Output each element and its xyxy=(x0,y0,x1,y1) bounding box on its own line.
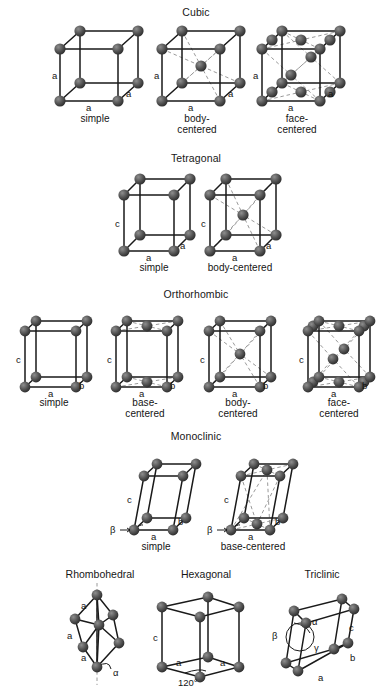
edge-label-a: a xyxy=(139,388,145,397)
edge-label-a-right: a xyxy=(220,657,226,668)
edge-label-c: c xyxy=(200,354,205,365)
edge-label-a-mid: a xyxy=(67,630,73,641)
edge-label-a: a xyxy=(248,531,254,541)
edge-label-c: c xyxy=(201,218,206,229)
angle-label-beta: β xyxy=(207,524,213,535)
edge-label-c: c xyxy=(115,218,120,229)
edge-label-a-depth: a xyxy=(266,240,272,251)
edge-label-a-depth: a xyxy=(328,88,334,99)
caption-tetragonal-body-centered: body-centered xyxy=(196,263,284,274)
edge-label-c: c xyxy=(107,354,112,365)
edge-label-c: c xyxy=(127,494,132,505)
beta-arrow-icon xyxy=(217,528,227,532)
edge-label-a: a xyxy=(151,531,157,541)
cell-triclinic: Triclinic xyxy=(270,568,374,687)
edge-label-a: a xyxy=(232,388,238,397)
caption-orthorhombic-base-centered: base- centered xyxy=(103,398,187,419)
cell-orthorhombic-body-centered: c a b body- centered xyxy=(196,303,280,419)
edge-label-a: a xyxy=(48,388,54,397)
edge-label-a-top: a xyxy=(81,600,87,611)
edge-label-c: c xyxy=(224,494,229,505)
cell-tetragonal-simple: c a a simple xyxy=(110,167,198,274)
caption-cubic-body-centered: body- centered xyxy=(148,114,246,135)
angle-label-beta: β xyxy=(110,524,116,535)
edge-label-a-depth: a xyxy=(126,88,132,99)
caption-cubic-simple: simple xyxy=(46,114,144,125)
cell-rhombohedral: Rhombohedral xyxy=(55,568,145,689)
edge-label-a-bottom: a xyxy=(146,252,152,262)
group-title-hexagonal: Hexagonal xyxy=(152,568,260,580)
edge-label-a-depth: a xyxy=(180,240,186,251)
edge-label-a-bottom: a xyxy=(86,102,92,113)
edge-label-a-vertical: a xyxy=(253,70,259,81)
caption-cubic-face-centered: face- centered xyxy=(248,114,346,135)
beta-arrow-icon xyxy=(120,528,130,532)
edge-label-a: a xyxy=(318,672,324,683)
cell-cubic-simple: a a a simple xyxy=(46,21,144,125)
edge-label-a-left: a xyxy=(176,657,182,668)
cell-monoclinic-simple: c a b β simple xyxy=(110,445,202,553)
group-title-tetragonal: Tetragonal xyxy=(0,152,392,164)
edge-label-b: b xyxy=(170,380,175,391)
edge-label-a-bottom: a xyxy=(81,652,87,663)
group-title-orthorhombic: Orthorhombic xyxy=(0,288,392,300)
group-bottom-row: Rhombohedral xyxy=(0,568,392,698)
cell-hexagonal: Hexagonal c xyxy=(152,568,260,687)
cell-orthorhombic-base-centered: c a b base- centered xyxy=(103,303,187,419)
edge-label-b: b xyxy=(275,516,280,527)
group-monoclinic: Monoclinic xyxy=(0,430,392,555)
group-tetragonal: Tetragonal c a xyxy=(0,152,392,277)
edge-label-a-vertical: a xyxy=(52,70,58,81)
edge-label-b: b xyxy=(263,380,268,391)
angle-label-120: 120° xyxy=(178,677,198,687)
group-orthorhombic: Orthorhombic c a xyxy=(0,288,392,415)
crystal-lattice-figure: Cubic xyxy=(0,0,392,699)
cell-monoclinic-base-centered: c a b β base-centered xyxy=(207,445,299,553)
group-title-monoclinic: Monoclinic xyxy=(0,430,392,442)
group-title-triclinic: Triclinic xyxy=(270,568,374,580)
edge-label-c: c xyxy=(153,632,158,643)
edge-label-b: b xyxy=(178,516,183,527)
edge-label-a-depth: a xyxy=(228,88,234,99)
group-cubic: Cubic xyxy=(0,6,392,133)
cell-cubic-face-centered: a a a face- centered xyxy=(248,21,346,135)
caption-orthorhombic-face-centered: face- centered xyxy=(295,398,383,419)
cell-tetragonal-body-centered: c a a body-centered xyxy=(196,167,284,274)
edge-label-c: c xyxy=(299,354,304,365)
angle-label-alpha: α xyxy=(312,616,318,627)
group-title-rhombohedral: Rhombohedral xyxy=(55,568,145,580)
edge-label-b: b xyxy=(79,380,84,391)
cell-orthorhombic-face-centered: c a b face- centered xyxy=(295,303,383,419)
edge-label-a-bottom: a xyxy=(232,252,238,262)
edge-label-a: a xyxy=(331,388,337,397)
edge-label-b: b xyxy=(350,652,355,663)
cell-orthorhombic-simple: c a b simple xyxy=(12,303,96,409)
angle-label-beta: β xyxy=(272,630,278,641)
caption-orthorhombic-simple: simple xyxy=(12,398,96,409)
edge-label-b: b xyxy=(362,380,367,391)
angle-label-alpha: α xyxy=(113,667,119,678)
caption-monoclinic-simple: simple xyxy=(110,542,202,553)
cell-cubic-body-centered: a a a body- centered xyxy=(148,21,246,135)
angle-label-gamma: γ xyxy=(314,642,319,653)
edge-label-a-bottom: a xyxy=(288,102,294,113)
caption-orthorhombic-body-centered: body- centered xyxy=(196,398,280,419)
group-title-cubic: Cubic xyxy=(0,6,392,18)
edge-label-c: c xyxy=(16,354,21,365)
edge-label-c: c xyxy=(349,622,354,633)
edge-label-a-vertical: a xyxy=(154,70,160,81)
caption-tetragonal-simple: simple xyxy=(110,263,198,274)
caption-monoclinic-base-centered: base-centered xyxy=(207,542,299,553)
edge-label-a-bottom: a xyxy=(188,102,194,113)
